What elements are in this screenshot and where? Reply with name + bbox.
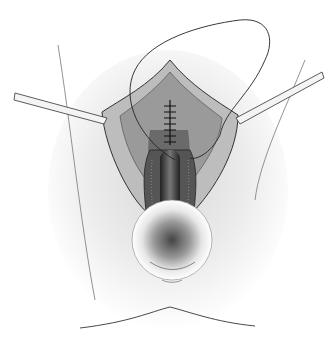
illustration-canvas [0,0,336,341]
surgical-illustration [0,0,336,341]
